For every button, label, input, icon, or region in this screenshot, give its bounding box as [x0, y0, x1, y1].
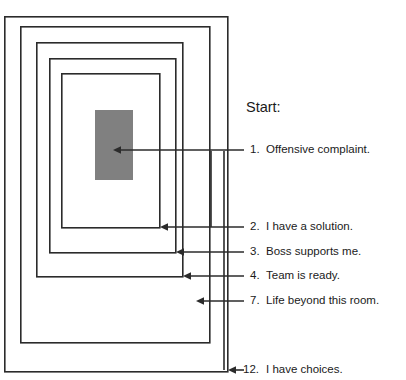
label-number-2: 2. — [250, 220, 260, 232]
arrow-head-2 — [160, 223, 168, 231]
core-block — [95, 110, 133, 180]
arrow-head-12 — [228, 366, 236, 374]
ring-rect-12 — [5, 17, 228, 372]
label-text-12: I have choices. — [266, 363, 343, 375]
label-number-3: 3. — [250, 245, 260, 257]
label-number-12: 12. — [243, 363, 259, 375]
start-heading: Start: — [246, 99, 281, 115]
label-text-4: Team is ready. — [266, 269, 340, 281]
arrow-head-4 — [183, 272, 191, 280]
label-text-3: Boss supports me. — [266, 245, 361, 257]
arrow-head-7 — [196, 297, 204, 305]
diagram-canvas: Start: 1. Offensive complaint. 2. I have… — [0, 0, 406, 380]
label-number-1: 1. — [250, 143, 260, 155]
nested-boxes-diagram: Start: 1. Offensive complaint. 2. I have… — [0, 0, 406, 380]
label-number-7: 7. — [250, 294, 260, 306]
label-number-4: 4. — [250, 269, 260, 281]
label-text-2: I have a solution. — [266, 220, 353, 232]
arrow-head-3 — [176, 248, 184, 256]
label-text-7: Life beyond this room. — [266, 294, 379, 306]
label-text-1: Offensive complaint. — [266, 143, 370, 155]
